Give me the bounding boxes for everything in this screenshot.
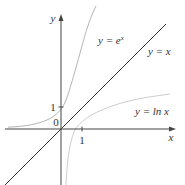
y-axis-arrow-icon	[59, 14, 64, 21]
identity-label: y = x	[147, 45, 171, 57]
ln-label: y = ln x	[134, 105, 169, 117]
x-tick-label: 1	[79, 134, 85, 146]
x-axis-label: x	[168, 131, 174, 143]
function-graph: 1 1 0 x y y = ex y = x y = ln x	[0, 0, 185, 185]
y-tick-label: 1	[50, 101, 56, 113]
exp-label: y = ex	[97, 34, 125, 46]
exp-label-sup: x	[120, 34, 125, 42]
exp-label-base: y = e	[97, 34, 121, 46]
origin-label: 0	[53, 116, 59, 128]
y-axis-label: y	[50, 12, 56, 24]
